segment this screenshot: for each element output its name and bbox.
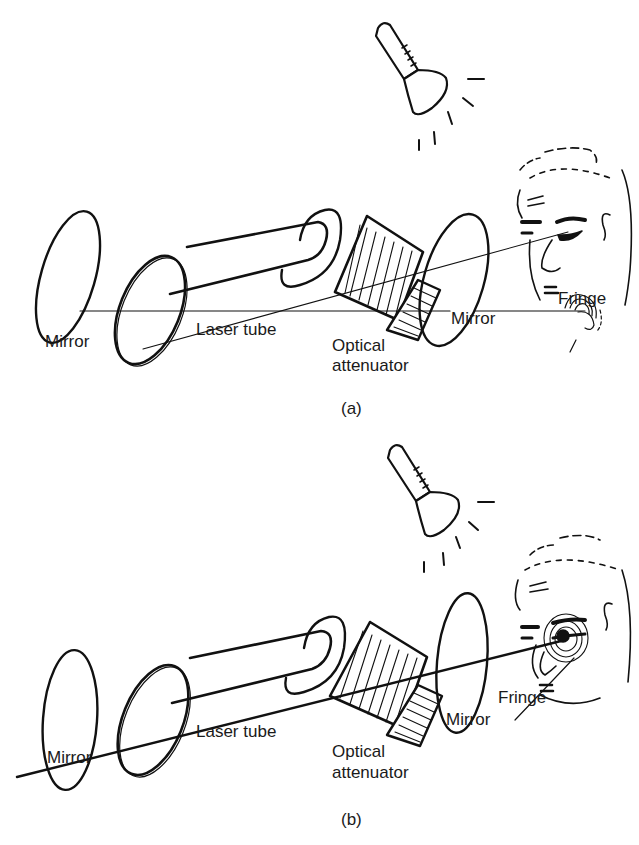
label-laser-tube-b: Laser tube bbox=[196, 722, 276, 741]
laser-tube-icon bbox=[101, 210, 341, 377]
flashlight-icon bbox=[376, 23, 484, 150]
panel-a-drawing bbox=[0, 0, 639, 420]
laser-tube-icon bbox=[103, 617, 345, 787]
label-mirror-right-a: Mirror bbox=[451, 309, 495, 328]
caption-b: (b) bbox=[341, 810, 362, 829]
flashlight-icon bbox=[388, 445, 494, 572]
label-fringe-a: Fringe bbox=[558, 289, 606, 308]
label-attenuator-b: attenuator bbox=[332, 763, 409, 782]
label-fringe-b: Fringe bbox=[498, 688, 546, 707]
label-mirror-left-a: Mirror bbox=[45, 332, 89, 351]
label-mirror-right-b: Mirror bbox=[446, 710, 490, 729]
laser-diagram-figure: Mirror Laser tube Optical attenuator Mir… bbox=[0, 0, 639, 845]
label-optical-a: Optical bbox=[332, 336, 385, 355]
caption-a: (a) bbox=[341, 399, 362, 418]
mirror-left-icon bbox=[23, 204, 112, 350]
face-icon bbox=[517, 148, 631, 352]
label-mirror-left-b: Mirror bbox=[47, 748, 91, 767]
label-laser-tube-a: Laser tube bbox=[196, 320, 276, 339]
label-attenuator-a: attenuator bbox=[332, 356, 409, 375]
label-optical-b: Optical bbox=[332, 742, 385, 761]
panel-b-drawing bbox=[0, 420, 639, 845]
